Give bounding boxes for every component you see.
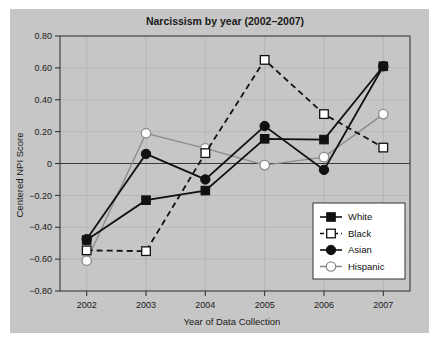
data-point-marker: [201, 149, 210, 158]
legend-item-hispanic[interactable]: Hispanic: [320, 261, 385, 272]
y-tick-label: 0.80: [34, 31, 52, 41]
data-point-marker: [141, 149, 150, 158]
legend-label: Black: [348, 228, 371, 239]
narcissism-line-chart: Narcissism by year (2002–2007) −0.80−0.6…: [10, 9, 429, 333]
y-tick-label: 0.40: [34, 95, 52, 105]
data-point-marker: [201, 175, 210, 184]
y-axis-title: Centered NPI Score: [14, 132, 25, 217]
y-tick-label: −0.80: [29, 286, 52, 296]
data-point-marker: [82, 256, 91, 265]
data-point-marker: [320, 110, 329, 119]
y-tick-label: −0.40: [29, 222, 52, 232]
x-tick-label: 2004: [195, 300, 215, 310]
data-point-marker: [260, 160, 269, 169]
y-tick-label: 0.60: [34, 63, 52, 73]
x-tick-label: 2003: [136, 300, 156, 310]
legend-label: Asian: [348, 244, 372, 255]
data-point-marker: [260, 56, 269, 65]
y-tick-label: −0.20: [29, 191, 52, 201]
data-point-marker: [201, 186, 210, 195]
data-point-marker: [142, 196, 151, 205]
chart-figure: Narcissism by year (2002–2007) −0.80−0.6…: [10, 9, 429, 333]
data-point-marker: [142, 247, 151, 256]
data-point-marker: [320, 135, 329, 144]
data-point-marker: [319, 165, 328, 174]
x-tick-label: 2005: [255, 300, 275, 310]
y-tick-label: 0.20: [34, 127, 52, 137]
y-tick-label: −0.60: [29, 254, 52, 264]
data-point-marker: [82, 235, 91, 244]
legend-label: White: [348, 211, 372, 222]
data-point-marker: [319, 152, 328, 161]
x-tick-label: 2006: [314, 300, 334, 310]
legend-marker: [326, 262, 335, 271]
legend-label: Hispanic: [348, 261, 385, 272]
y-tick-label: 0: [47, 159, 52, 169]
data-point-marker: [379, 143, 388, 152]
data-point-marker: [82, 246, 91, 255]
data-point-marker: [260, 121, 269, 130]
data-point-marker: [141, 129, 150, 138]
y-axis-ticks: −0.80−0.60−0.40−0.2000.200.400.600.80: [29, 31, 60, 296]
x-tick-label: 2002: [77, 300, 97, 310]
data-point-marker: [379, 62, 388, 71]
data-point-marker: [260, 134, 269, 143]
x-axis-title: Year of Data Collection: [184, 316, 281, 327]
data-point-marker: [379, 109, 388, 118]
legend-marker: [327, 213, 336, 222]
chart-title: Narcissism by year (2002–2007): [146, 15, 304, 27]
legend-marker: [326, 245, 335, 254]
x-axis-ticks: 200220032004200520062007: [77, 291, 394, 310]
legend-marker: [327, 229, 336, 238]
chart-legend[interactable]: WhiteBlackAsianHispanic: [313, 203, 405, 279]
x-tick-label: 2007: [373, 300, 393, 310]
